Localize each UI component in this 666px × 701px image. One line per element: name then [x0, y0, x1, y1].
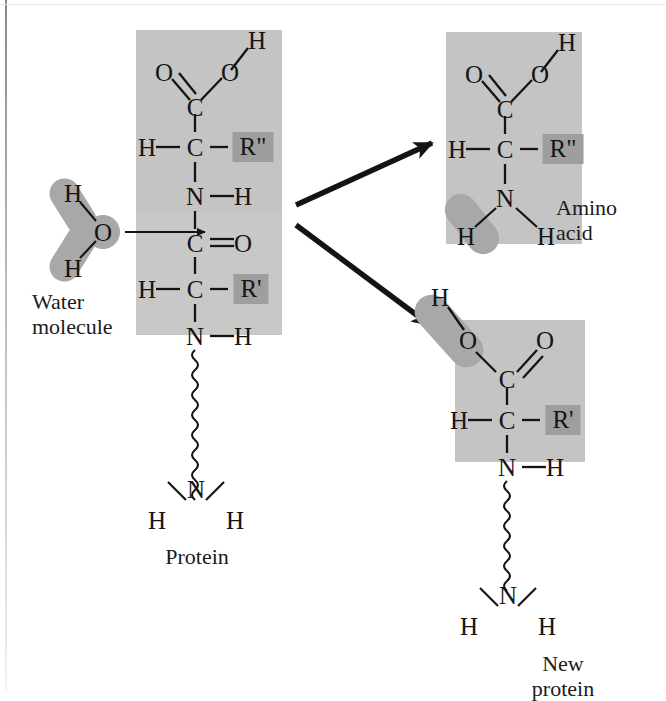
new-protein-hydroxyl-o: O — [459, 328, 477, 353]
new-protein-alpha-c: C — [499, 408, 516, 433]
protein-r-group-prime: R' — [233, 274, 268, 304]
new-protein-terminus-h-right: H — [538, 614, 556, 639]
protein-hydroxyl-h: H — [248, 28, 266, 53]
amino-acid-added-h: H — [457, 224, 475, 249]
water-h-bottom: H — [64, 256, 82, 281]
new-protein-carbonyl-c: C — [499, 367, 516, 392]
amino-acid-carbonyl-o: O — [465, 62, 483, 87]
protein-alpha-h-2: H — [138, 277, 156, 302]
protein-r-group-double-prime: R" — [233, 132, 274, 162]
new-protein-terminus-h-left: H — [460, 614, 478, 639]
protein-alpha-h: H — [138, 135, 156, 160]
arrow-to-new-protein — [296, 225, 430, 325]
water-h-top: H — [64, 181, 82, 206]
amino-acid-hydroxyl-o: O — [531, 62, 549, 87]
amino-acid-alpha-c: C — [497, 137, 514, 162]
protein-carbonyl-c: C — [187, 95, 204, 120]
protein-terminus-h-right: H — [226, 508, 244, 533]
protein-alpha-c: C — [187, 135, 204, 160]
amino-acid-r-group: R" — [543, 134, 584, 164]
amino-acid-carbonyl-c: C — [497, 97, 514, 122]
protein-caption: Protein — [165, 545, 229, 570]
protein-amide-n-top: N — [186, 184, 204, 209]
protein-amide-h-2: H — [234, 324, 252, 349]
protein-terminus-n: N — [187, 477, 205, 502]
new-protein-added-h: H — [431, 285, 449, 310]
amino-acid-caption: Amino acid — [556, 196, 617, 245]
new-protein-amide-n: N — [498, 455, 516, 480]
protein-amide-h-top: H — [234, 184, 252, 209]
protein-hydroxyl-o: O — [221, 60, 239, 85]
new-protein-amide-h: H — [546, 455, 564, 480]
new-protein-alpha-h: H — [450, 408, 468, 433]
protein-carbonyl-o-double: O — [155, 60, 173, 85]
new-protein-chain-squiggle — [504, 481, 510, 591]
amino-acid-alpha-h: H — [448, 137, 466, 162]
protein-terminus-h-left: H — [148, 508, 166, 533]
new-protein-carbonyl-o: O — [536, 328, 554, 353]
new-protein-r-group: R' — [545, 405, 580, 435]
protein-amide-n-2: N — [186, 324, 204, 349]
protein-highlight-box-wide — [136, 30, 282, 212]
water-molecule-caption: Water molecule — [32, 290, 113, 339]
amino-acid-hydroxyl-h: H — [558, 30, 576, 55]
new-protein-terminus-n: N — [499, 583, 517, 608]
amino-acid-amine-h: H — [537, 224, 555, 249]
protein-carbonyl-o-2: O — [234, 231, 252, 256]
new-protein-caption: New protein — [512, 652, 615, 701]
arrow-to-amino-acid — [296, 143, 432, 205]
water-o: O — [94, 220, 112, 245]
protein-carbonyl-c-2: C — [187, 231, 204, 256]
amino-acid-amine-n: N — [496, 186, 514, 211]
protein-alpha-c-2: C — [187, 277, 204, 302]
